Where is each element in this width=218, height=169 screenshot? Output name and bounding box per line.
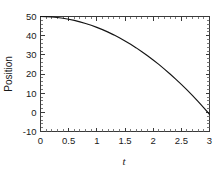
x-tick-label: 0 — [38, 135, 43, 146]
y-tick-label: 20 — [26, 68, 37, 79]
x-tick-label: 3 — [207, 135, 212, 146]
y-tick-label: 50 — [26, 11, 37, 22]
y-tick-label: 30 — [26, 49, 37, 60]
y-tick-label: 40 — [26, 30, 37, 41]
x-axis-tick-labels: 00.511.522.53 — [38, 135, 212, 146]
x-tick-label: 2.5 — [175, 135, 188, 146]
x-tick-label: 1.5 — [118, 135, 131, 146]
position-vs-time-plot: 00.511.522.53 -1001020304050 t Position — [0, 0, 218, 169]
y-tick-label: 10 — [26, 88, 37, 99]
y-axis-title: Position — [3, 56, 14, 92]
chart-figure: 00.511.522.53 -1001020304050 t Position — [0, 0, 218, 169]
x-tick-label: 1 — [94, 135, 99, 146]
x-tick-label: 0.5 — [62, 135, 75, 146]
y-tick-label: -10 — [23, 126, 37, 137]
y-tick-label: 0 — [31, 107, 36, 118]
x-tick-label: 2 — [151, 135, 156, 146]
